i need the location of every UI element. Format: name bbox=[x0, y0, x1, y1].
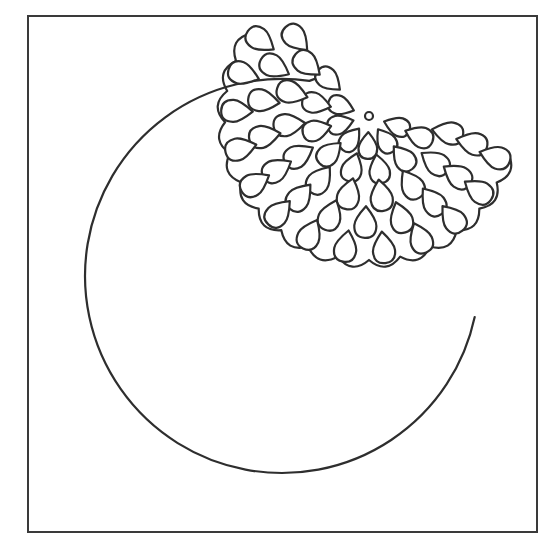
flower-petal bbox=[337, 178, 359, 209]
flower-petal bbox=[264, 201, 290, 228]
flower-petal bbox=[277, 80, 308, 102]
flower-petal bbox=[480, 147, 511, 169]
flower-petal bbox=[371, 180, 393, 211]
flower-center-dot bbox=[365, 112, 373, 120]
flower-petal bbox=[282, 24, 308, 51]
dahlia-flower bbox=[218, 24, 512, 267]
flower-petal bbox=[465, 181, 494, 205]
flower-petal bbox=[302, 121, 331, 142]
flower-petal bbox=[225, 138, 256, 160]
flower-petal bbox=[405, 127, 433, 148]
flower-petal bbox=[334, 231, 356, 262]
flower-petal bbox=[391, 202, 413, 233]
flower-petal bbox=[354, 206, 376, 238]
flower-petal bbox=[259, 53, 289, 76]
flower-petal bbox=[228, 61, 259, 84]
flower-petal bbox=[394, 146, 417, 171]
flower-petal bbox=[318, 200, 341, 231]
flower-petal bbox=[442, 206, 466, 233]
flower-petal bbox=[358, 132, 377, 159]
flower-petal bbox=[328, 95, 354, 114]
flower-petal bbox=[316, 143, 340, 167]
flower-petal bbox=[292, 50, 319, 75]
flower-petal bbox=[240, 174, 269, 197]
flower-petal bbox=[248, 89, 279, 111]
flower-petal bbox=[410, 223, 433, 253]
flower-petal bbox=[297, 220, 320, 250]
flower-petal bbox=[245, 26, 273, 50]
template-canvas bbox=[0, 0, 560, 547]
flower-petal bbox=[341, 153, 362, 182]
flower-petal bbox=[373, 232, 395, 264]
